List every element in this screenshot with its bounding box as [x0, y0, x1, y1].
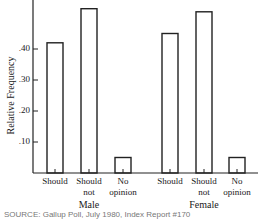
female-no-opinion-label: Noopinion: [217, 176, 257, 198]
bar-male-should: [47, 43, 63, 173]
tick-30: .30: [6, 74, 30, 84]
tick-20: .20: [6, 105, 30, 115]
group-label-male: Male: [59, 199, 119, 210]
tick-40: .40: [6, 43, 30, 53]
bars: [47, 9, 245, 173]
group-label-female: Female: [174, 199, 234, 210]
tick-10: .10: [6, 136, 30, 146]
y-ticks: [33, 49, 38, 142]
bar-female-should: [162, 34, 178, 174]
bar-male-should-not: [81, 9, 97, 173]
male-no-opinion-label: Noopinion: [103, 176, 143, 198]
source-note: SOURCE: Gallup Poll, July 1980, Index Re…: [4, 210, 190, 219]
bar-chart: Relative Frequency .40 .30 .20 .10 Shoul…: [0, 0, 262, 220]
bar-female-should-not: [196, 12, 212, 173]
